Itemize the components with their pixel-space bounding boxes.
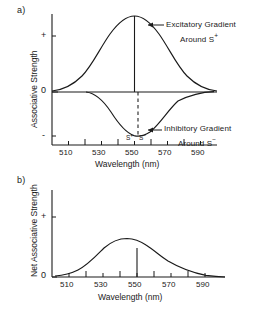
- panel-b-xtick-570: 570: [162, 281, 175, 289]
- net-associative-strength-curve: [55, 239, 225, 278]
- panel-b-ylabel-plus: +: [41, 212, 46, 221]
- inhibitory-annotation-line2: Around S−: [178, 137, 216, 148]
- panel-a-y-axis-title: Associative Strength: [30, 51, 39, 128]
- panel-b-xtick-550: 550: [128, 281, 141, 289]
- excitatory-annotation-line2: Around S+: [180, 33, 218, 44]
- panel-a-x-axis-title: Wavelength (nm): [95, 160, 159, 169]
- panel-b-ylabel-zero: 0: [41, 271, 46, 280]
- panel-a-ylabel-zero: 0: [41, 86, 46, 95]
- inhibitory-s-sign: −: [212, 136, 216, 143]
- panel-b-xtick-590: 590: [196, 281, 209, 289]
- excitatory-s-sign: +: [214, 32, 218, 39]
- panel-a-ylabel-minus: -: [42, 131, 45, 140]
- panel-b-tag: b): [17, 176, 25, 185]
- panel-a-xtick-550: 550: [125, 149, 138, 157]
- panel-a-xtick-510: 510: [59, 149, 72, 157]
- panel-a-tag: a): [17, 6, 25, 15]
- inhibitory-around-text: Around S: [178, 139, 212, 148]
- excitatory-around-text: Around S: [180, 35, 214, 44]
- panel-b-x-axis-title: Wavelength (nm): [98, 293, 162, 302]
- stimulus-marker-s-minus: S−: [139, 133, 146, 142]
- s-minus-sign: −: [143, 132, 146, 138]
- panel-b-xtick-530: 530: [94, 281, 107, 289]
- panel-b-y-axis-title: Net Associative Strength: [30, 184, 39, 277]
- panel-b-plot: [52, 190, 225, 277]
- panel-a-ylabel-plus: +: [41, 31, 46, 40]
- excitatory-annotation-line1: Excitatory Gradient: [166, 21, 236, 29]
- panel-a-xtick-570: 570: [158, 149, 171, 157]
- stimulus-marker-s-plus: S+: [126, 133, 133, 142]
- panel-a-xtick-530: 530: [92, 149, 105, 157]
- inhibitory-annotation-line1: Inhibitory Gradient: [164, 125, 231, 133]
- panel-a-xtick-590: 590: [191, 149, 204, 157]
- s-plus-sign: +: [130, 132, 133, 138]
- peak-shift-figure: a) Associative Strength + 0 - 510 530 55…: [0, 0, 255, 313]
- panel-b-xtick-510: 510: [60, 281, 73, 289]
